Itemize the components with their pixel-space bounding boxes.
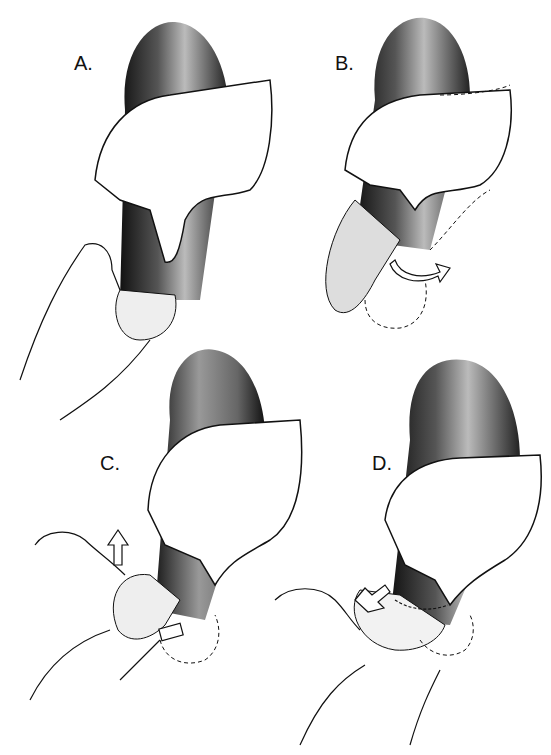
panel-label-c: C. [100, 452, 120, 475]
up-arrow-icon [108, 530, 128, 565]
panel-label-b: B. [335, 52, 354, 75]
panel-label-d: D. [372, 452, 392, 475]
panel-c [30, 349, 302, 700]
panel-d [275, 359, 541, 745]
figure-canvas [0, 0, 551, 755]
rotation-arrow-icon [390, 260, 450, 282]
panel-label-a: A. [74, 52, 93, 75]
foot-a [116, 290, 176, 340]
